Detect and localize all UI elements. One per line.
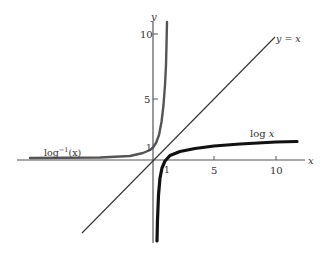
inverse-log-curve (30, 22, 167, 158)
log-label-text: log (250, 128, 269, 139)
y-tick-label-5: 5 (144, 94, 150, 105)
log-label-var: x (269, 128, 275, 139)
x-tick-label-10: 10 (270, 165, 283, 176)
y-tick-label-10: 10 (140, 29, 153, 40)
y-tick-label-1: 1 (146, 143, 152, 153)
function-graph: y x 10 5 1 1 5 10 y = x log x log−1(x) (0, 0, 329, 262)
x-axis-label: x (308, 155, 314, 166)
log-label: log x (250, 128, 275, 139)
inverse-log-label: log−1(x) (44, 146, 81, 158)
inverse-log-label-arg: (x) (68, 147, 81, 158)
inverse-log-label-prefix: log (44, 147, 59, 158)
identity-label: y = x (275, 33, 301, 44)
x-tick-label-5: 5 (211, 165, 217, 176)
x-tick-label-1: 1 (164, 165, 170, 175)
y-axis-label: y (150, 11, 157, 22)
inverse-log-label-sup: −1 (59, 146, 69, 154)
identity-line (82, 37, 275, 233)
